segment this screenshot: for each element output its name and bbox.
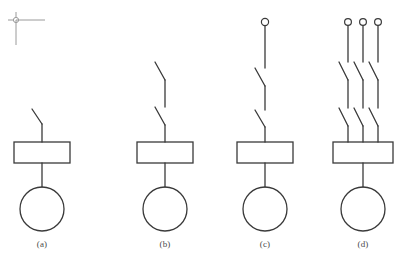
- panel-c-switch-blade-lower: [255, 110, 265, 127]
- panel-d-switch-blade-lower-1: [339, 108, 348, 126]
- panel-c: [237, 18, 293, 231]
- panel-a: [14, 109, 70, 231]
- panel-d-switch-blade-upper-2: [354, 62, 363, 80]
- panel-d-switch-blade-lower-3: [369, 108, 378, 126]
- panel-d: [333, 19, 393, 231]
- panel-b: [137, 62, 193, 231]
- figure-root: (a) (b) (c) (d): [0, 0, 403, 270]
- schematic-canvas: [0, 0, 403, 270]
- panel-b-switch-blade-upper: [155, 62, 165, 80]
- panel-d-switch-blade-upper-1: [339, 62, 348, 80]
- panel-b-load-circle: [143, 187, 187, 231]
- panel-b-coil-block: [137, 142, 193, 163]
- panel-d-switch-blade-upper-3: [369, 62, 378, 80]
- panel-a-load-circle: [20, 187, 64, 231]
- panel-d-terminal-circle-icon-3: [375, 19, 382, 26]
- panel-b-switch-blade-lower: [155, 107, 165, 125]
- origin-crosshair-icon: [8, 12, 45, 45]
- panel-c-switch-blade-upper: [255, 68, 265, 86]
- panel-a-switch-blade: [32, 109, 42, 124]
- panel-c-coil-block: [237, 142, 293, 163]
- panel-d-load-circle: [341, 187, 385, 231]
- panel-d-terminal-circle-icon-2: [360, 19, 367, 26]
- panel-d-switch-blade-lower-2: [354, 108, 363, 126]
- panel-a-coil-block: [14, 142, 70, 163]
- panel-d-terminal-circle-icon-1: [345, 19, 352, 26]
- panel-d-coil-block: [333, 142, 393, 163]
- panel-c-load-circle: [243, 187, 287, 231]
- panel-c-terminal-circle-icon: [261, 18, 268, 25]
